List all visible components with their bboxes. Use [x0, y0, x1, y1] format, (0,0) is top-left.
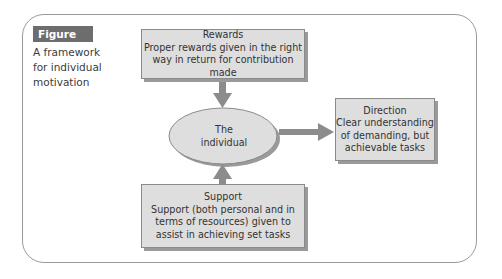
individual-line: The — [169, 124, 279, 137]
support-line: terms of resources) given to — [155, 216, 291, 229]
rewards-line: Proper rewards given in the right — [144, 42, 302, 55]
arrow-rewards-to-individual — [213, 82, 232, 108]
support-node: Support Support (both personal and in te… — [141, 184, 305, 248]
direction-line: achievable tasks — [345, 142, 425, 155]
arrow-support-to-individual — [213, 164, 232, 185]
rewards-title: Rewards — [203, 29, 244, 42]
support-line: Support (both personal and in — [151, 204, 295, 217]
direction-node: Direction Clear understanding of demandi… — [335, 98, 435, 161]
rewards-node: Rewards Proper rewards given in the righ… — [141, 29, 305, 79]
direction-line: Clear understanding — [336, 117, 434, 130]
arrow-individual-to-direction — [279, 123, 334, 141]
support-title: Support — [204, 191, 242, 204]
direction-title: Direction — [363, 105, 406, 118]
support-line: assist in achieving set tasks — [156, 229, 290, 242]
individual-node: The individual — [169, 124, 279, 149]
direction-line: of demanding, but — [341, 130, 430, 143]
rewards-line: way in return for contribution made — [142, 54, 304, 79]
individual-line: individual — [169, 137, 279, 150]
